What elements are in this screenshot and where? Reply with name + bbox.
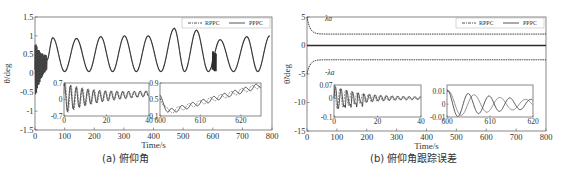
- y-axis-label-a: θ/deg: [2, 63, 12, 83]
- x-tick-label: 500: [177, 131, 190, 141]
- legend-entry-rppc: RPPC: [205, 20, 220, 26]
- y-tick-label: -0.7: [51, 112, 63, 121]
- x-tick-label: 200: [88, 131, 101, 141]
- chart-a: 0100200300400500600700800-1.5-1-0.500.51…: [2, 12, 278, 150]
- y-tick-label: 0.07: [319, 81, 332, 90]
- y-tick-label: 1: [29, 31, 33, 41]
- x-tick-label: 0: [305, 132, 309, 142]
- y-tick-label: 0: [59, 95, 63, 104]
- y-tick-label: 0: [329, 94, 333, 103]
- annotation-neg-lambda: -λa: [325, 68, 335, 77]
- caption-a: (a) 俯仰角: [102, 150, 149, 165]
- x-tick-label: 800: [540, 132, 553, 142]
- x-tick-label: 20: [103, 116, 111, 125]
- y-tick-label: 0: [29, 68, 33, 78]
- x-tick-label: 610: [484, 117, 496, 126]
- y-tick-label: 0.01: [432, 87, 445, 96]
- y-tick-label: -5: [298, 69, 305, 79]
- y-tick-label: 0.5: [149, 95, 159, 104]
- x-tick-label: 40: [417, 117, 425, 126]
- y-tick-label: 5: [301, 12, 305, 22]
- x-tick-label: 100: [58, 131, 71, 141]
- legend-entry-pppc: PPPC: [249, 20, 263, 26]
- y-tick-label: 0.9: [149, 79, 159, 88]
- x-tick-label: 620: [235, 116, 247, 125]
- y-tick-label: 1.5: [23, 12, 34, 22]
- legend-entry-pppc: PPPC: [523, 20, 537, 26]
- x-tick-label: 620: [527, 117, 539, 126]
- caption-b: (b) 俯仰角跟踪误差: [370, 150, 457, 165]
- x-tick-label: 0: [62, 116, 66, 125]
- x-tick-label: 800: [266, 131, 279, 141]
- y-tick-label: 0: [442, 100, 446, 109]
- x-tick-label: 20: [374, 117, 382, 126]
- figure: 0100200300400500600700800-1.5-1-0.500.51…: [0, 0, 568, 180]
- x-tick-label: 0: [332, 117, 336, 126]
- annotation-lambda: λa: [324, 14, 332, 23]
- x-tick-label: 500: [450, 132, 463, 142]
- x-tick-label: 300: [390, 132, 403, 142]
- x-tick-label: 300: [118, 131, 131, 141]
- y-tick-label: 0.7: [53, 79, 63, 88]
- x-tick-label: 600: [480, 132, 493, 142]
- y-tick-label: -0.1: [321, 113, 333, 122]
- x-tick-label: 600: [206, 131, 219, 141]
- y-axis-label-b: θ̃/deg: [282, 64, 292, 84]
- y-tick-label: -0.01: [430, 113, 446, 122]
- y-tick-label: -10: [294, 97, 305, 107]
- x-axis-label-a: Time/s: [141, 140, 166, 150]
- y-tick-label: 0: [301, 40, 305, 50]
- y-tick-label: 0.1: [149, 112, 159, 121]
- x-tick-label: 0: [33, 131, 37, 141]
- y-tick-label: -0.5: [20, 87, 33, 97]
- chart-b: 0100200300400500600700800-15-10-505λa-λa…: [282, 12, 552, 151]
- legend-entry-rppc: RPPC: [479, 20, 494, 26]
- x-tick-label: 100: [331, 132, 344, 142]
- x-tick-label: 200: [360, 132, 373, 142]
- y-tick-label: 0.5: [23, 49, 34, 59]
- y-tick-label: -1.5: [20, 125, 33, 135]
- y-tick-label: -1: [26, 106, 33, 116]
- x-tick-label: 700: [236, 131, 249, 141]
- inset-b2: [447, 85, 533, 117]
- x-tick-label: 700: [510, 132, 523, 142]
- y-tick-label: -15: [294, 126, 305, 136]
- x-tick-label: 610: [195, 116, 207, 125]
